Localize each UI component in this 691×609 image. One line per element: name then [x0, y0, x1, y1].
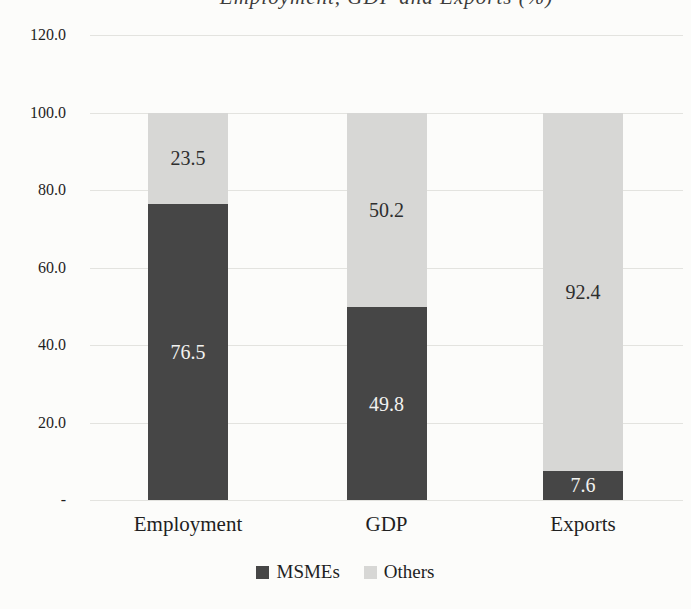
bar-segment-others: 92.4: [543, 113, 623, 471]
bar-value-label: 92.4: [566, 282, 601, 302]
plot-area: -20.040.060.080.0100.0120.076.523.5Emplo…: [0, 0, 691, 609]
legend-item-others: Others: [364, 561, 435, 583]
bar-value-label: 23.5: [171, 148, 206, 168]
y-axis-tick-label: 100.0: [0, 103, 66, 123]
category-label: Employment: [108, 512, 268, 537]
legend-swatch-msmes: [256, 566, 269, 579]
legend-label: MSMEs: [276, 561, 339, 583]
legend-swatch-others: [364, 566, 377, 579]
y-axis-tick-label: 20.0: [0, 413, 66, 433]
bar-value-label: 50.2: [369, 200, 404, 220]
legend-item-msmes: MSMEs: [256, 561, 339, 583]
bar-segment-msmes: 76.5: [148, 204, 228, 500]
bar-segment-others: 23.5: [148, 113, 228, 204]
stacked-bar-chart-figure: Employment, GDP and Exports (%) -20.040.…: [0, 0, 691, 609]
gridline: [90, 35, 683, 36]
legend-label: Others: [384, 561, 435, 583]
bar-value-label: 49.8: [369, 394, 404, 414]
y-axis-tick-label: 60.0: [0, 258, 66, 278]
gridline: [90, 500, 683, 501]
category-label: GDP: [307, 512, 467, 537]
bar-value-label: 76.5: [171, 342, 206, 362]
y-axis-tick-label: 40.0: [0, 335, 66, 355]
bar-segment-others: 50.2: [347, 113, 427, 308]
legend: MSMEsOthers: [0, 561, 691, 583]
bar-value-label: 7.6: [571, 475, 596, 495]
y-axis-tick-label: 80.0: [0, 180, 66, 200]
bar-segment-msmes: 49.8: [347, 307, 427, 500]
bar-segment-msmes: 7.6: [543, 471, 623, 500]
y-axis-tick-label: -: [0, 490, 66, 510]
category-label: Exports: [503, 512, 663, 537]
y-axis-tick-label: 120.0: [0, 25, 66, 45]
